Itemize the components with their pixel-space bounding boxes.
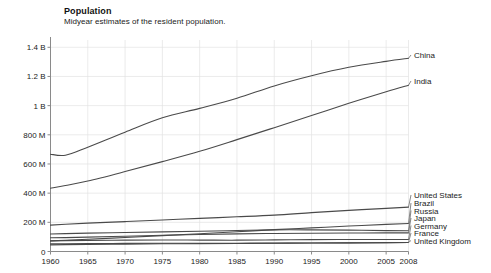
- population-chart: Population Midyear estimates of the resi…: [0, 0, 491, 273]
- y-tick-label: 0: [41, 248, 46, 257]
- x-tick-label: 1965: [79, 257, 97, 266]
- axes: [48, 37, 409, 255]
- gridlines: [51, 40, 409, 252]
- x-tick-label: 2000: [340, 257, 358, 266]
- x-tick-label: 1975: [153, 257, 171, 266]
- leader-line-china: [409, 55, 412, 58]
- x-tick-label: 2008: [400, 257, 418, 266]
- series-labels: ChinaIndiaUnited StatesBrazilRussiaJapan…: [414, 51, 471, 246]
- y-tick-label: 200 M: [23, 218, 46, 227]
- x-tick-label: 1995: [303, 257, 321, 266]
- series-line-united-kingdom: [51, 243, 409, 244]
- x-tick-label: 1980: [191, 257, 209, 266]
- label-leader-lines: [409, 55, 412, 243]
- y-tick-label: 800 M: [23, 131, 46, 140]
- y-tick-label: 1.4 B: [27, 43, 46, 52]
- x-tick-label: 1985: [228, 257, 246, 266]
- series-label-china: China: [414, 51, 435, 60]
- y-tick-label: 1 B: [33, 102, 45, 111]
- series-line-brazil: [51, 224, 409, 241]
- data-series-lines: [51, 58, 409, 245]
- series-line-germany: [51, 239, 409, 240]
- x-tick-label: 1970: [116, 257, 134, 266]
- y-tick-label: 1.2 B: [27, 72, 46, 81]
- series-line-china: [51, 58, 409, 155]
- x-tick-label: 1990: [265, 257, 283, 266]
- y-axis-tick-labels: 0200 M400 M600 M800 M1 B1.2 B1.4 B: [23, 43, 46, 256]
- series-label-india: India: [414, 77, 432, 86]
- x-tick-label: 2005: [377, 257, 395, 266]
- x-axis-tick-labels: 1960196519701975198019851990199520002005…: [42, 257, 418, 266]
- leader-line-india: [409, 81, 412, 85]
- x-tick-label: 1960: [42, 257, 60, 266]
- chart-plot-area: 0200 M400 M600 M800 M1 B1.2 B1.4 B 19601…: [0, 0, 491, 273]
- y-tick-label: 600 M: [23, 160, 46, 169]
- series-line-japan: [51, 233, 409, 238]
- series-label-united-kingdom: United Kingdom: [414, 237, 471, 246]
- y-tick-label: 400 M: [23, 189, 46, 198]
